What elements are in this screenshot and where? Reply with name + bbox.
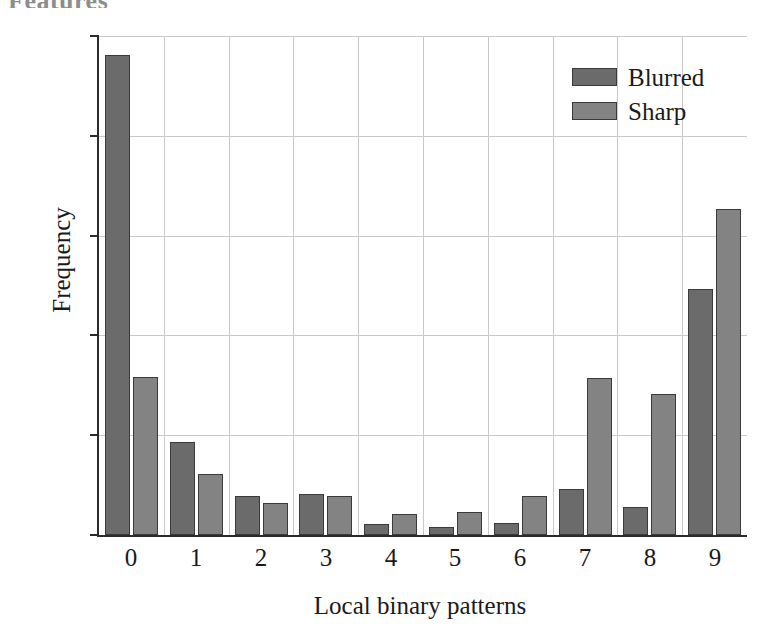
bar-group [423,36,488,535]
y-axis-tick-mark [90,135,99,137]
y-axis-label: Frequency [48,160,76,360]
bar-sharp-1 [198,474,223,535]
bar-sharp-8 [651,394,676,535]
bar-blurred-0 [105,55,130,535]
bar-blurred-6 [494,523,519,535]
bar-sharp-0 [133,377,158,535]
x-axis-label: Local binary patterns [96,592,744,620]
bar-blurred-5 [429,527,454,535]
bar-sharp-7 [587,378,612,535]
y-axis-tick-mark [90,235,99,237]
bar-group [164,36,229,535]
y-axis-tick-mark [90,434,99,436]
bar-chart-figure: Features Frequency Local binary patterns… [0,0,763,638]
y-axis-tick-mark [90,334,99,336]
bar-group [229,36,294,535]
y-axis-tick-mark [90,534,99,536]
bar-group [358,36,423,535]
legend-swatch-blurred [572,68,617,86]
legend-item-sharp: Sharp [572,94,752,128]
x-axis-tick-label: 9 [675,544,755,572]
legend-item-blurred: Blurred [572,60,752,94]
bar-blurred-4 [364,524,389,535]
bar-blurred-1 [170,442,195,535]
bar-blurred-9 [688,289,713,536]
bar-sharp-9 [716,209,741,535]
bar-group [293,36,358,535]
bar-sharp-6 [522,496,547,535]
chart-legend: BlurredSharp [572,60,752,128]
bar-blurred-7 [559,489,584,535]
y-axis-tick-mark [90,35,99,37]
legend-label: Blurred [628,65,704,90]
page-top-cut-text: Features [8,0,308,8]
bar-blurred-2 [235,496,260,535]
bar-group [488,36,553,535]
bar-sharp-4 [392,514,417,535]
bar-group [99,36,164,535]
legend-label: Sharp [628,99,686,124]
bar-sharp-5 [457,512,482,535]
bar-sharp-3 [327,496,352,535]
bar-blurred-3 [299,494,324,535]
bar-blurred-8 [623,507,648,535]
legend-swatch-sharp [572,102,617,120]
bar-sharp-2 [263,503,288,535]
